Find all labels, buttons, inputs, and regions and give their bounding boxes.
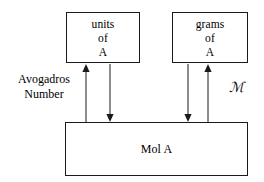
node-units-of-a: units of A — [66, 12, 140, 63]
node-grams-of-a-line2: of — [205, 31, 215, 45]
node-units-of-a-line2: of — [98, 31, 108, 45]
node-grams-of-a-line1: grams — [196, 17, 225, 31]
node-mol-a: Mol A — [65, 122, 248, 176]
arrow-grams-to-mol-up — [204, 64, 211, 122]
label-avogadros-number: Avogadros Number — [6, 72, 82, 102]
node-units-of-a-line1: units — [92, 17, 115, 31]
node-grams-of-a-line3: A — [206, 45, 214, 59]
arrow-units-to-mol-up — [82, 64, 89, 122]
node-grams-of-a: grams of A — [172, 12, 248, 63]
label-avogadros-line2: Number — [24, 87, 63, 101]
label-avogadros-line1: Avogadros — [18, 72, 70, 86]
node-units-of-a-line3: A — [99, 45, 107, 59]
node-mol-a-label: Mol A — [141, 142, 173, 156]
arrow-grams-to-mol-down — [184, 64, 191, 122]
label-molar-mass-symbol: ℳ — [222, 80, 250, 95]
mole-conversion-diagram: units of A grams of A Mol A Avogadros Nu… — [0, 0, 264, 182]
arrow-units-to-mol-down — [106, 64, 113, 122]
